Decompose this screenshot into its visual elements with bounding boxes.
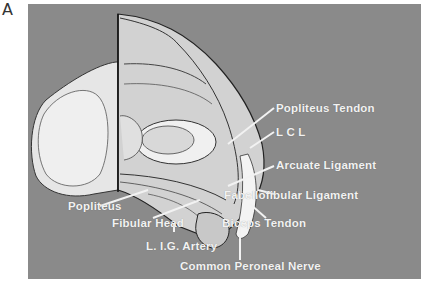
label-lig-artery: L. I.G. Artery — [146, 240, 217, 252]
label-popliteus: Popliteus — [68, 200, 122, 212]
label-popliteus-tendon: Popliteus Tendon — [276, 102, 375, 114]
label-fibular-head: Fibular Head — [112, 217, 184, 229]
label-common-peroneal-nerve: Common Peroneal Nerve — [180, 260, 321, 272]
label-lcl: L C L — [276, 126, 306, 138]
panel-letter: A — [2, 0, 13, 19]
anatomical-illustration: Popliteus Tendon L C L Arcuate Ligament … — [28, 4, 421, 279]
label-arcuate-ligament: Arcuate Ligament — [276, 159, 376, 171]
label-fabellofibular-ligament: Fabellofibular Ligament — [224, 189, 358, 201]
label-biceps-tendon: Biceps Tendon — [222, 217, 306, 229]
knee-drawing — [28, 4, 421, 279]
